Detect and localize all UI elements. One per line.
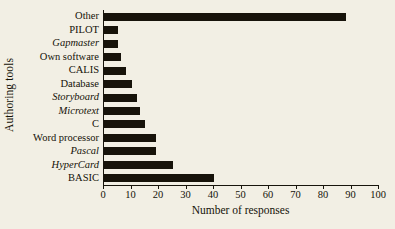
- y-axis-tick-label: Gapmaster: [14, 37, 102, 50]
- bar-chart-figure: Authoring tools OtherPILOTGapmasterOwn s…: [0, 0, 395, 229]
- y-axis-tick-label: Microtext: [14, 104, 102, 117]
- bar-row: [104, 172, 379, 185]
- x-axis-tick-label: 70: [290, 190, 301, 201]
- y-axis-tick-label: Other: [14, 10, 102, 23]
- bar: [104, 53, 121, 61]
- x-axis-title: Number of responses: [103, 204, 378, 216]
- bar: [104, 13, 346, 21]
- bar-row: [104, 91, 379, 104]
- x-axis-tick-label: 100: [370, 190, 386, 201]
- bar: [104, 26, 118, 34]
- bar-row: [104, 37, 379, 50]
- bar-row: [104, 118, 379, 131]
- bar: [104, 134, 156, 142]
- bar: [104, 147, 156, 155]
- bar-row: [104, 50, 379, 63]
- x-axis-tick-label: 30: [180, 190, 191, 201]
- bar: [104, 174, 214, 182]
- y-axis-tick-label: Word processor: [14, 131, 102, 144]
- y-axis-tick-label: Storyboard: [14, 91, 102, 104]
- bar-row: [104, 131, 379, 144]
- bar: [104, 94, 137, 102]
- y-axis-tick-label: BASIC: [14, 172, 102, 185]
- bar: [104, 40, 118, 48]
- x-axis-tick-label: 80: [318, 190, 329, 201]
- bar-row: [104, 10, 379, 23]
- y-axis-tick-labels: OtherPILOTGapmasterOwn softwareCALISData…: [14, 10, 102, 185]
- x-axis-tick-label: 0: [100, 190, 105, 201]
- bar-row: [104, 145, 379, 158]
- bar-series: [104, 10, 379, 185]
- x-axis-tick-label: 40: [208, 190, 219, 201]
- bar: [104, 80, 132, 88]
- y-axis-tick-label: HyperCard: [14, 158, 102, 171]
- x-axis-line: [103, 185, 378, 186]
- bar-row: [104, 158, 379, 171]
- x-axis-tick-label: 50: [235, 190, 246, 201]
- y-axis-tick-label: Pascal: [14, 145, 102, 158]
- x-axis-tick-label: 90: [345, 190, 356, 201]
- y-axis-tick-label: CALIS: [14, 64, 102, 77]
- x-axis-tick-label: 20: [153, 190, 164, 201]
- y-axis-tick-label: PILOT: [14, 23, 102, 36]
- bar-row: [104, 104, 379, 117]
- x-axis-tick-label: 60: [263, 190, 274, 201]
- x-axis-tick-label: 10: [125, 190, 136, 201]
- bar: [104, 120, 145, 128]
- y-axis-tick-label: Own software: [14, 50, 102, 63]
- bar-row: [104, 64, 379, 77]
- bar: [104, 67, 126, 75]
- y-axis-tick-label: Database: [14, 77, 102, 90]
- plot-area: [103, 10, 379, 185]
- y-axis-tick-label: C: [14, 118, 102, 131]
- bar: [104, 107, 140, 115]
- bar-row: [104, 77, 379, 90]
- bar: [104, 161, 173, 169]
- bar-row: [104, 23, 379, 36]
